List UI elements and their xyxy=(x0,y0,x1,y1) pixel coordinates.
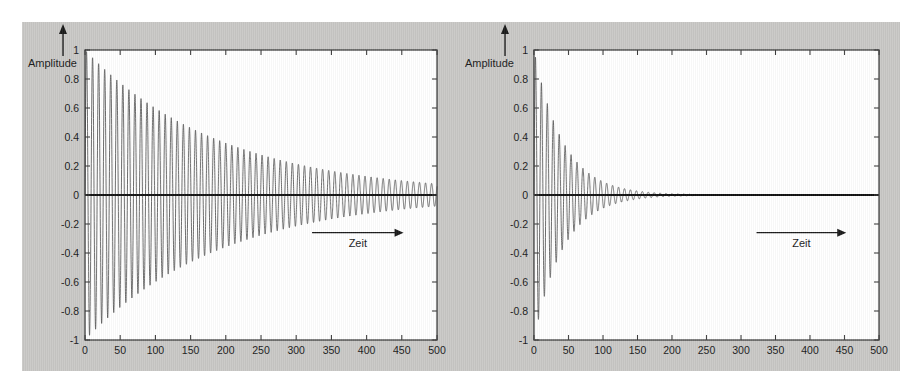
x-tick-label: 50 xyxy=(114,344,126,356)
x-tick-label: 200 xyxy=(663,344,681,356)
chart-svg-left: 050100150200250300350400450500-1-0.8-0.6… xyxy=(22,22,462,371)
x-tick-label: 450 xyxy=(393,344,411,356)
x-tick-label: 400 xyxy=(358,344,376,356)
y-tick-label: -0.2 xyxy=(61,218,79,230)
y-tick-label: 0.8 xyxy=(513,73,528,85)
x-tick-label: 350 xyxy=(323,344,341,356)
y-tick-label: 0 xyxy=(73,189,79,201)
x-tick-label: 50 xyxy=(563,344,575,356)
up-arrow-head-icon xyxy=(501,24,509,34)
chart-svg-right: 050100150200250300350400450500-1-0.8-0.6… xyxy=(462,22,900,371)
x-tick-label: 300 xyxy=(732,344,750,356)
y-tick-label: -0.2 xyxy=(510,218,528,230)
y-tick-label: 0 xyxy=(522,189,528,201)
zeit-axis-label: Zeit xyxy=(349,237,367,249)
y-tick-label: -0.4 xyxy=(510,247,528,259)
y-tick-label: 0.4 xyxy=(513,131,528,143)
y-tick-label: 0.2 xyxy=(513,160,528,172)
y-tick-label: 0.6 xyxy=(513,102,528,114)
figure-backdrop: 050100150200250300350400450500-1-0.8-0.6… xyxy=(22,22,900,371)
x-tick-label: 150 xyxy=(629,344,647,356)
y-tick-label: 0.2 xyxy=(64,160,79,172)
chart-panel-left: 050100150200250300350400450500-1-0.8-0.6… xyxy=(22,22,462,371)
amplitude-axis-label: Amplitude xyxy=(28,57,77,69)
amplitude-axis-label: Amplitude xyxy=(465,57,514,69)
y-tick-label: 0.4 xyxy=(64,131,79,143)
y-tick-label: -0.8 xyxy=(510,305,528,317)
x-tick-label: 500 xyxy=(428,344,446,356)
up-arrow-head-icon xyxy=(59,24,67,34)
x-tick-label: 250 xyxy=(252,344,270,356)
x-tick-label: 150 xyxy=(182,344,200,356)
y-tick-label: -0.6 xyxy=(510,276,528,288)
y-tick-label: -1 xyxy=(70,334,79,346)
zeit-axis-label: Zeit xyxy=(792,237,810,249)
x-tick-label: 300 xyxy=(287,344,305,356)
x-tick-label: 450 xyxy=(836,344,854,356)
y-tick-label: -0.4 xyxy=(61,247,79,259)
figure-page: 050100150200250300350400450500-1-0.8-0.6… xyxy=(0,0,923,391)
x-tick-label: 0 xyxy=(82,344,88,356)
x-tick-label: 350 xyxy=(767,344,785,356)
y-tick-label: -0.8 xyxy=(61,305,79,317)
chart-panel-right: 050100150200250300350400450500-1-0.8-0.6… xyxy=(462,22,900,371)
amplitude-axis-annotation: Amplitude xyxy=(28,24,77,69)
amplitude-axis-annotation: Amplitude xyxy=(465,24,514,69)
y-tick-label: 0.6 xyxy=(64,102,79,114)
y-tick-label: -1 xyxy=(519,334,528,346)
x-tick-label: 500 xyxy=(870,344,888,356)
y-tick-label: -0.6 xyxy=(61,276,79,288)
x-tick-label: 400 xyxy=(801,344,819,356)
y-tick-label: 1 xyxy=(73,44,79,56)
x-tick-label: 0 xyxy=(531,344,537,356)
x-tick-label: 250 xyxy=(698,344,716,356)
y-tick-label: 1 xyxy=(522,44,528,56)
x-tick-label: 200 xyxy=(217,344,235,356)
y-tick-label: 0.8 xyxy=(64,73,79,85)
x-tick-label: 100 xyxy=(147,344,165,356)
x-tick-label: 100 xyxy=(594,344,612,356)
